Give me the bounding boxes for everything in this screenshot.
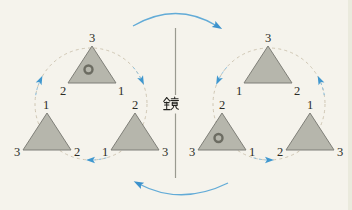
rotation-arc [254, 158, 267, 160]
curved-arrow-top-shaft [133, 14, 217, 27]
triangle-right-top [244, 46, 292, 83]
vertex-label: 2 [132, 98, 138, 112]
vertex-label: 3 [189, 145, 195, 159]
vertex-label: 3 [337, 145, 343, 159]
triangle-left-top [68, 46, 116, 83]
curved-arrow-top [133, 14, 224, 33]
triangle-left-bottom-right [111, 113, 159, 150]
rotation-arrowhead-icon [315, 74, 325, 85]
rotation-arrowhead-icon [137, 75, 147, 86]
vertex-label: 3 [265, 31, 271, 45]
triangle-right-bottom-right [286, 113, 334, 150]
page-edge [348, 0, 352, 210]
vertex-label: 2 [277, 145, 283, 159]
vertex-label: 1 [236, 84, 242, 98]
vertex-label: 1 [43, 98, 49, 112]
triangle-left-bottom-left [23, 113, 71, 150]
vertex-label: 3 [162, 145, 168, 159]
figure-mirror-rotation-diagram: 3 2 1 1 3 2 2 1 3 3 1 2 2 3 1 1 2 3 [0, 0, 352, 210]
rotation-arrowhead-icon [213, 75, 223, 86]
curved-arrow-bottom-shaft [139, 183, 228, 195]
vertex-label: 3 [89, 31, 95, 45]
triangle-right-bottom-left [198, 113, 246, 150]
triangle-group-right: 3 1 2 2 3 1 1 2 3 [189, 31, 343, 159]
vertex-label: 1 [118, 84, 124, 98]
vertex-label: 2 [294, 84, 300, 98]
rotation-arc [219, 67, 227, 78]
curved-arrow-bottom-head-icon [132, 178, 144, 189]
mirror-label: 鏡 [164, 97, 179, 113]
rotation-arc [133, 67, 141, 78]
vertex-label: 1 [102, 145, 108, 159]
rotation-arrowhead-icon [36, 74, 46, 85]
rotation-arc [36, 82, 40, 95]
vertex-label: 3 [14, 145, 20, 159]
triangle-group-left: 3 2 1 1 3 2 2 1 3 [14, 31, 168, 159]
figure-canvas: 3 2 1 1 3 2 2 1 3 3 1 2 2 3 1 1 2 3 [0, 0, 352, 210]
vertex-label: 2 [60, 84, 66, 98]
rotation-arc [321, 82, 325, 95]
curved-arrow-top-head-icon [212, 21, 224, 32]
curved-arrow-bottom [132, 178, 228, 195]
vertex-label: 1 [307, 98, 313, 112]
vertex-label: 2 [219, 98, 225, 112]
vertex-label: 2 [74, 145, 80, 159]
vertex-label: 1 [249, 145, 255, 159]
